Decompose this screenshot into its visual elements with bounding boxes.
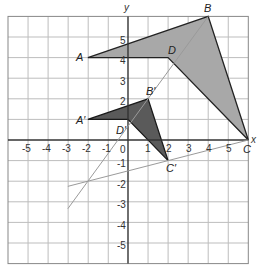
y-tick-label: -1 [117,158,126,169]
x-tick-label: 1 [145,143,151,154]
y-tick-label: 5 [120,35,126,46]
x-tick-label: -2 [82,143,91,154]
vertex-label-b-prime: B′ [146,85,156,97]
y-tick-label: -4 [117,220,126,231]
x-tick-label: -3 [62,143,71,154]
x-tick-label: -4 [42,143,51,154]
vertex-label-c: C [243,143,251,155]
y-tick-label: 2 [120,96,126,107]
y-axis-label: y [123,2,130,13]
vertex-label-d: D [168,44,176,56]
vertex-label-a-prime: A′ [75,114,86,126]
x-axis-label: x [250,134,257,145]
y-tick-label: -5 [117,240,126,251]
y-tick-label: 4 [120,55,126,66]
x-tick-label: 4 [206,143,212,154]
x-tick-label: 5 [226,143,232,154]
y-tick-label: -2 [117,179,126,190]
vertex-label-a: A [75,51,83,63]
diagram-svg: y x 0 -5 -4 -3 -2 -1 1 2 3 4 5 5 4 3 2 -… [0,0,263,273]
vertex-label-c-prime: C′ [166,162,177,174]
y-tick-label: 3 [120,76,126,87]
y-tick-label: -3 [117,199,126,210]
x-tick-label: -5 [22,143,31,154]
vertex-label-d-prime: D′ [116,124,127,136]
coordinate-plane-figure: y x 0 -5 -4 -3 -2 -1 1 2 3 4 5 5 4 3 2 -… [0,0,263,273]
x-tick-label: 3 [186,143,192,154]
x-tick-label: 2 [166,143,172,154]
origin-label: 0 [120,144,126,155]
x-tick-label: -1 [102,143,111,154]
y-tick-labels: 5 4 3 2 -1 -2 -3 -4 -5 [117,35,126,251]
vertex-label-b: B [204,2,211,14]
